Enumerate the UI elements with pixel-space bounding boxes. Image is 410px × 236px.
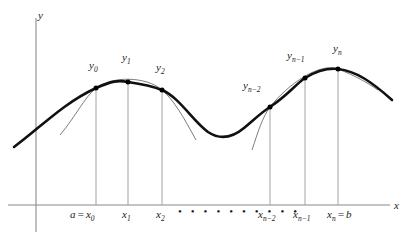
x-axis-label: x	[394, 200, 399, 211]
point-label-y1: y1	[122, 52, 131, 63]
tick-label-x0: a=x0	[70, 209, 95, 220]
tick-label-xn: xn=b	[327, 209, 352, 220]
tick-label-x0-equals: =	[76, 208, 86, 220]
tick-label-x0-sub: 0	[91, 214, 95, 223]
point-label-yn-2-sub: n−2	[248, 85, 261, 94]
tick-label-x2: x2	[156, 209, 165, 220]
tick-label-xn-sub: n	[332, 214, 336, 223]
point-marker-y2	[160, 88, 165, 93]
tick-label-xn-equals: =	[336, 208, 346, 220]
sample-points-group	[94, 67, 341, 110]
y-axis-label: y	[38, 10, 43, 21]
simpsons-rule-figure: y x y0 y1 y2 yn−2 yn−1 yn a=x0 x1 x2 xn−…	[0, 0, 410, 236]
point-label-y0-sub: 0	[94, 65, 98, 74]
point-label-yn-1-sub: n−1	[292, 55, 305, 64]
point-label-y1-sub: 1	[127, 57, 131, 66]
point-marker-yn-2	[268, 105, 273, 110]
point-label-yn-2: yn−2	[243, 80, 260, 91]
point-marker-yn-1	[303, 76, 308, 81]
point-label-yn-1: yn−1	[287, 50, 304, 61]
point-label-y0: y0	[89, 60, 98, 71]
point-label-yn-sub: n	[338, 48, 342, 57]
tick-label-x1: x1	[122, 209, 131, 220]
point-label-y2: y2	[156, 62, 165, 73]
point-label-yn: yn	[333, 43, 342, 54]
point-marker-y0	[94, 86, 99, 91]
tick-label-x2-sub: 2	[161, 214, 165, 223]
point-marker-y1	[126, 80, 131, 85]
axis-ellipsis-dots: • • • • • • • • • •	[178, 206, 300, 217]
point-marker-yn	[336, 67, 341, 72]
tick-label-xn-b: b	[346, 208, 352, 220]
function-curve	[14, 69, 392, 147]
tick-label-x1-sub: 1	[127, 214, 131, 223]
figure-canvas	[0, 0, 410, 236]
tick-label-x0-a: a	[70, 208, 76, 220]
point-label-y2-sub: 2	[161, 67, 165, 76]
